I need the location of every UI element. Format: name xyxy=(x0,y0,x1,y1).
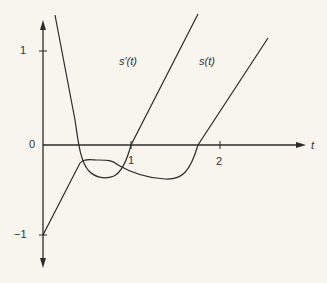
series-s-label: s(t) xyxy=(199,56,215,67)
x-axis xyxy=(43,141,306,149)
y-tick-label-0: 0 xyxy=(29,139,35,150)
y-tick-label-neg1: −1 xyxy=(14,229,27,240)
x-axis-arrow-icon xyxy=(296,142,306,148)
chart-plot xyxy=(0,0,327,283)
x-axis-label: t xyxy=(311,140,314,151)
y-axis-up-arrow-icon xyxy=(40,20,46,30)
chart-figure: 1 0 −1 1 2 t s′(t) s(t) xyxy=(0,0,327,283)
y-axis-down-arrow-icon xyxy=(40,258,46,268)
x-tick-label-1: 1 xyxy=(128,155,134,166)
series-s-curve xyxy=(43,38,268,235)
x-tick-label-2: 2 xyxy=(216,156,222,167)
series-s-prime-curve xyxy=(55,14,198,178)
y-tick-label-1: 1 xyxy=(20,45,26,56)
series-s-prime-label: s′(t) xyxy=(119,56,137,67)
